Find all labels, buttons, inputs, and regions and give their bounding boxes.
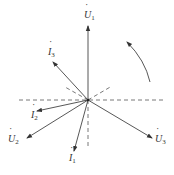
phasor-I2 xyxy=(37,100,88,111)
label-I2: I2 xyxy=(31,110,38,122)
phasor-diagram: U1 I3 I2 U2 I1 U3 xyxy=(0,0,174,175)
phasors xyxy=(27,26,152,151)
phasor-I3 xyxy=(53,62,88,100)
rotation-arrow-icon xyxy=(127,42,150,82)
label-I3: I3 xyxy=(48,47,55,59)
label-U2: U2 xyxy=(8,134,19,146)
dashed-diagonal-left xyxy=(65,87,88,100)
phasor-U3 xyxy=(88,100,152,138)
label-U1: U1 xyxy=(84,10,95,22)
label-I1: I1 xyxy=(69,153,76,165)
dashed-diagonal-right xyxy=(88,86,112,100)
label-U3: U3 xyxy=(155,134,166,146)
origin-point xyxy=(87,99,90,102)
phasor-canvas xyxy=(0,0,174,175)
reference-axes xyxy=(19,86,166,148)
